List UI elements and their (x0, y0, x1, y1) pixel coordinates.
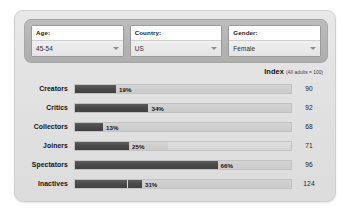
row-index-value: 96 (292, 161, 326, 168)
chevron-down-icon[interactable] (113, 47, 119, 50)
chevron-down-icon[interactable] (310, 47, 316, 50)
chart-row: Spectators66%96 (24, 155, 326, 174)
row-label: Collectors (24, 123, 74, 130)
filter-age[interactable]: Age: 45-54 (31, 25, 124, 57)
filter-age-select[interactable]: 45-54 (32, 40, 123, 56)
bar-track: 31% (74, 179, 292, 189)
filter-gender-value: Female (233, 45, 255, 52)
technographics-widget: Age: 45-54 Country: US Gender: Female In… (14, 10, 336, 202)
chart-row: Joiners25%71 (24, 136, 326, 155)
filter-age-value: 45-54 (36, 45, 53, 52)
filter-country-label: Country: (131, 26, 222, 40)
index-title: Index (264, 67, 284, 76)
chart-row: Collectors13%68 (24, 117, 326, 136)
bar-value-label: 31% (145, 180, 157, 187)
bar-fill (75, 180, 142, 188)
row-index-value: 124 (292, 180, 326, 187)
filter-bar: Age: 45-54 Country: US Gender: Female (24, 19, 328, 63)
bar-fill (75, 142, 129, 150)
bar-track-tail (168, 142, 291, 150)
row-label: Inactives (24, 180, 74, 187)
filter-country-value: US (135, 45, 144, 52)
row-label: Creators (24, 85, 74, 92)
bar-fill (75, 161, 218, 169)
filter-gender-select[interactable]: Female (229, 40, 320, 56)
bar-fill (75, 104, 148, 112)
bar-segment-divider (127, 180, 128, 188)
bar-fill (75, 85, 116, 93)
bar-value-label: 34% (151, 104, 163, 111)
index-column-header: Index (All adults = 100) (264, 67, 323, 76)
index-note: (All adults = 100) (286, 70, 323, 75)
filter-country-select[interactable]: US (131, 40, 222, 56)
filter-gender[interactable]: Gender: Female (228, 25, 321, 57)
bar-value-label: 66% (221, 161, 233, 168)
row-index-value: 90 (292, 85, 326, 92)
filter-country[interactable]: Country: US (130, 25, 223, 57)
row-label: Critics (24, 104, 74, 111)
chart-row: Critics34%92 (24, 98, 326, 117)
chevron-down-icon[interactable] (211, 47, 217, 50)
row-index-value: 68 (292, 123, 326, 130)
row-index-value: 92 (292, 104, 326, 111)
bar-track: 66% (74, 160, 292, 170)
bar-track: 13% (74, 122, 292, 132)
bar-track: 34% (74, 103, 292, 113)
bar-chart-rows: Creators19%90Critics34%92Collectors13%68… (24, 79, 326, 193)
row-label: Spectators (24, 161, 74, 168)
filter-gender-label: Gender: (229, 26, 320, 40)
bar-track: 25% (74, 141, 292, 151)
bar-value-label: 19% (119, 85, 131, 92)
bar-value-label: 13% (106, 123, 118, 130)
row-label: Joiners (24, 142, 74, 149)
filter-age-label: Age: (32, 26, 123, 40)
bar-value-label: 25% (132, 142, 144, 149)
chart-row: Inactives31%124 (24, 174, 326, 193)
bar-fill (75, 123, 103, 131)
chart-row: Creators19%90 (24, 79, 326, 98)
row-index-value: 71 (292, 142, 326, 149)
bar-track: 19% (74, 84, 292, 94)
